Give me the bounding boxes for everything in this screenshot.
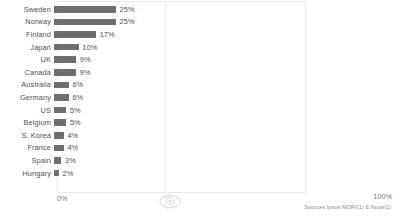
- bar-track: 17%: [54, 28, 393, 41]
- bar: [54, 119, 66, 126]
- bar: [54, 19, 116, 26]
- bar-row: Australia6%: [0, 79, 393, 92]
- bar-track: 4%: [54, 129, 393, 142]
- source-attribution: Sources Ipsos MORI(1) & Nova(1): [304, 204, 391, 210]
- bar-category-label: US: [0, 106, 54, 115]
- x-axis-min-label: 0%: [57, 194, 68, 203]
- bar-row: Canada9%: [0, 66, 393, 79]
- bar-value-label: 9%: [80, 55, 91, 64]
- bar-category-label: Germany: [0, 93, 54, 102]
- bar-category-label: France: [0, 143, 54, 152]
- bar-value-label: 10%: [82, 43, 97, 52]
- bar-track: 25%: [54, 3, 393, 16]
- bar-track: 9%: [54, 53, 393, 66]
- bar: [54, 44, 79, 51]
- bar-row: Germany6%: [0, 91, 393, 104]
- bar-track: 5%: [54, 104, 393, 117]
- bar-track: 5%: [54, 116, 393, 129]
- bar-row: Hungary2%: [0, 167, 393, 180]
- bar: [54, 69, 76, 76]
- bar-row: Finland17%: [0, 28, 393, 41]
- bar: [54, 132, 64, 139]
- bar-category-label: Hungary: [0, 169, 54, 178]
- bar-category-label: Japan: [0, 43, 54, 52]
- bar-category-label: Sweden: [0, 5, 54, 14]
- bar-row: US5%: [0, 104, 393, 117]
- bar: [54, 56, 76, 63]
- bar-track: 25%: [54, 16, 393, 29]
- bar: [54, 157, 61, 164]
- circular-logo-watermark-icon: [159, 193, 181, 210]
- bar-row: Norway25%: [0, 16, 393, 29]
- bar-track: 10%: [54, 41, 393, 54]
- bar-row: Japan10%: [0, 41, 393, 54]
- bar-value-label: 4%: [67, 143, 78, 152]
- bar-category-label: Canada: [0, 68, 54, 77]
- bar-track: 6%: [54, 91, 393, 104]
- bar-category-label: Belgium: [0, 118, 54, 127]
- bar-row: UK9%: [0, 53, 393, 66]
- bar-value-label: 6%: [72, 80, 83, 89]
- bar-value-label: 2%: [62, 169, 73, 178]
- bar-value-label: 5%: [70, 106, 81, 115]
- bar: [54, 145, 64, 152]
- bar: [54, 94, 69, 101]
- bar: [54, 170, 59, 177]
- bar-category-label: S. Korea: [0, 131, 54, 140]
- bar-row: France4%: [0, 142, 393, 155]
- bar-value-label: 6%: [72, 93, 83, 102]
- bar-track: 9%: [54, 66, 393, 79]
- bar-rows: Sweden25%Norway25%Finland17%Japan10%UK9%…: [0, 3, 393, 179]
- bar-value-label: 9%: [80, 68, 91, 77]
- bar: [54, 6, 116, 13]
- bar-category-label: Norway: [0, 17, 54, 26]
- bar-category-label: UK: [0, 55, 54, 64]
- bar-chart: Sweden25%Norway25%Finland17%Japan10%UK9%…: [0, 0, 393, 221]
- bar-row: Spain3%: [0, 154, 393, 167]
- bar-value-label: 25%: [120, 5, 135, 14]
- bar-row: Sweden25%: [0, 3, 393, 16]
- bar-category-label: Spain: [0, 156, 54, 165]
- bar: [54, 31, 96, 38]
- bar-category-label: Finland: [0, 30, 54, 39]
- bar: [54, 107, 66, 114]
- bar-track: 3%: [54, 154, 393, 167]
- bar-row: Belgium5%: [0, 116, 393, 129]
- bar-category-label: Australia: [0, 80, 54, 89]
- bar-row: S. Korea4%: [0, 129, 393, 142]
- bar-value-label: 17%: [100, 30, 115, 39]
- bar-track: 2%: [54, 167, 393, 180]
- bar-value-label: 5%: [70, 118, 81, 127]
- bar-value-label: 25%: [120, 17, 135, 26]
- bar-value-label: 3%: [65, 156, 76, 165]
- bar-track: 6%: [54, 79, 393, 92]
- bar-track: 4%: [54, 142, 393, 155]
- bar-value-label: 4%: [67, 131, 78, 140]
- bar: [54, 82, 69, 89]
- x-axis-max-label: 100%: [373, 192, 392, 201]
